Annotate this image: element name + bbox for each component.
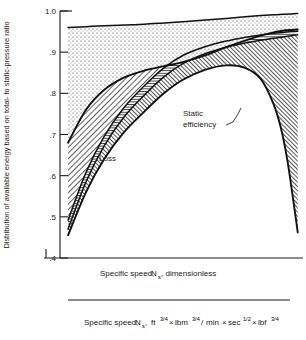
x2-unit-times-1: × <box>169 318 174 327</box>
x2-unit-sec-exponent: 1/2 <box>243 316 251 322</box>
y-tick-label: .5 <box>49 213 56 222</box>
x2-axis-title-comma: , <box>145 318 147 327</box>
specific-speed-energy-distribution-chart: 1.0.9.8.7.6.5.4 Distribution of availabl… <box>0 0 306 340</box>
x2-unit-lbm-exponent: 3/4 <box>192 316 200 322</box>
x-axis-title-symbol: N <box>151 269 157 278</box>
static-efficiency-label-line2: efficiency <box>183 120 216 129</box>
y-tick-label: .4 <box>49 254 56 263</box>
x-axis-title-suffix: , dimensionless <box>161 269 216 278</box>
x2-axis-title-prefix: Specific speed, <box>84 318 138 327</box>
legend-title: Loss <box>99 154 116 163</box>
x2-unit-lbm: lbm <box>175 318 188 327</box>
y-tick-label: .6 <box>49 172 56 181</box>
x2-unit-ft: ft <box>151 318 156 327</box>
y-tick-label: .7 <box>49 131 56 140</box>
y-axis-title: Distribution of available energy based o… <box>2 21 11 248</box>
x2-unit-lbf: lbf <box>258 318 267 327</box>
x2-unit-min: min <box>206 318 219 327</box>
x2-unit-lbf-exponent: 3/4 <box>271 316 279 322</box>
y-tick-label: .9 <box>49 48 56 57</box>
y-tick-label: .8 <box>49 89 56 98</box>
x2-unit-times-2: × <box>222 318 227 327</box>
y-tick-label: 1.0 <box>45 7 57 16</box>
legend: Loss <box>99 154 116 163</box>
x2-axis-title-symbol: N <box>135 318 141 327</box>
figure-container: 1.0.9.8.7.6.5.4 Distribution of availabl… <box>0 0 306 340</box>
x2-unit-times-3: × <box>252 318 257 327</box>
static-efficiency-label-line1: Static <box>183 109 203 118</box>
x2-unit-ft-exponent: 3/4 <box>160 316 168 322</box>
x2-unit-sec: sec <box>228 318 240 327</box>
x-axis-title-prefix: Specific speed, <box>100 269 154 278</box>
